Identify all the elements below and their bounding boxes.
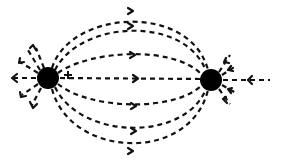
stub-line <box>32 88 41 105</box>
right-charge-inward-lines <box>219 55 270 104</box>
arrow-outward-icon <box>30 102 37 108</box>
stub-line <box>36 48 44 68</box>
field-lines-canvas <box>0 0 282 167</box>
arrow-right-icon <box>128 23 133 29</box>
connecting-field-lines <box>52 22 208 143</box>
field-line-bottom-2 <box>55 87 206 128</box>
field-line-bottom-3 <box>58 84 202 104</box>
arrow-right-icon <box>128 8 133 14</box>
field-line-center <box>60 78 200 79</box>
left-charge <box>37 67 59 89</box>
arrow-outward-icon <box>19 58 24 63</box>
arrow-right-icon <box>128 148 133 154</box>
right-charge <box>200 69 222 91</box>
stub-line <box>22 84 38 95</box>
stub-line <box>20 62 38 73</box>
arrow-right-icon <box>131 128 136 134</box>
field-line-bottom-1 <box>52 89 208 143</box>
dipole-field-diagram <box>0 0 282 167</box>
field-line-top-2 <box>55 31 206 71</box>
arrow-outward-icon <box>30 45 36 50</box>
